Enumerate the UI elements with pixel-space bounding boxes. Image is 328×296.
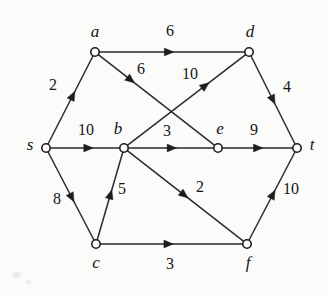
edge-weight-s-a: 2 [49, 76, 57, 93]
node-label-f: f [246, 253, 253, 272]
arrowhead-b-f [178, 189, 188, 198]
edge-weight-b-e: 3 [163, 122, 171, 139]
edge-weight-c-b: 5 [118, 180, 126, 197]
arrowhead-a-e [125, 74, 135, 83]
arrowhead-f-t [267, 190, 275, 200]
node-s [42, 144, 50, 152]
node-d [245, 48, 253, 56]
arrowhead-b-e [167, 144, 177, 152]
node-label-s: s [27, 135, 34, 154]
edge-weight-b-f: 2 [196, 178, 204, 195]
node-e [214, 144, 222, 152]
edge-weight-a-e: 6 [137, 60, 145, 77]
node-label-e: e [216, 119, 224, 138]
node-label-d: d [246, 22, 255, 41]
edge-weight-b-d: 10 [182, 65, 198, 82]
graph-svg: 2108661032534910 sabcdeft [0, 0, 328, 296]
node-label-b: b [114, 119, 123, 138]
node-label-c: c [92, 253, 100, 272]
arrowhead-s-a [67, 91, 75, 101]
node-label-a: a [91, 22, 100, 41]
edge-weight-a-d: 6 [166, 22, 174, 39]
edge-weight-s-b: 10 [78, 121, 94, 138]
edge-weight-f-t: 10 [283, 180, 299, 197]
arrowhead-b-d [199, 83, 209, 92]
arrowhead-s-b [84, 144, 94, 152]
arrowhead-c-b [105, 190, 113, 200]
node-c [92, 240, 100, 248]
node-label-t: t [310, 135, 316, 154]
arrowhead-e-t [253, 144, 263, 152]
edge-weight-e-t: 9 [250, 121, 258, 138]
arrowhead-a-d [164, 48, 174, 56]
node-t [293, 144, 301, 152]
node-b [120, 144, 128, 152]
figure-canvas: 2108661032534910 sabcdeft [0, 0, 328, 296]
node-a [91, 48, 99, 56]
arrowhead-d-t [267, 94, 275, 104]
node-f [243, 240, 251, 248]
edge-weight-d-t: 4 [283, 78, 291, 95]
edge-weight-s-c: 8 [53, 190, 61, 207]
arrowhead-c-f [164, 240, 174, 248]
arrowhead-s-c [66, 192, 74, 202]
edge-weight-c-f: 3 [166, 255, 174, 272]
